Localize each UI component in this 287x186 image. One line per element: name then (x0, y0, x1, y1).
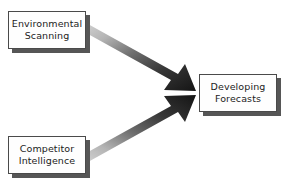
edge-scanning-to-forecasts-arrow (88, 24, 196, 91)
node-environmental-scanning-label: Environmental Scanning (9, 18, 85, 42)
edge-competitor-to-forecasts-arrow (88, 95, 196, 162)
node-environmental-scanning[interactable]: Environmental Scanning (8, 11, 86, 49)
node-developing-forecasts-label: Developing Forecasts (208, 81, 269, 105)
diagram-canvas: Environmental Scanning Competitor Intell… (0, 0, 287, 186)
node-competitor-intelligence-label: Competitor Intelligence (16, 143, 78, 167)
node-developing-forecasts[interactable]: Developing Forecasts (199, 74, 277, 112)
node-competitor-intelligence[interactable]: Competitor Intelligence (8, 136, 86, 174)
